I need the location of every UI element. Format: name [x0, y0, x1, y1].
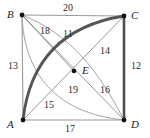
edge-weight-BD: 11 [63, 29, 73, 39]
vertex-dot-A [21, 118, 26, 123]
vertex-label-A: A [7, 119, 14, 130]
graph-diagram: B C E A D 20 18 11 13 14 12 19 16 15 17 [0, 0, 150, 138]
edge-weight-EC: 14 [100, 46, 110, 56]
vertex-dot-C [122, 14, 127, 19]
edge-weight-BC: 20 [63, 3, 73, 13]
vertex-dot-E [72, 69, 77, 74]
edge-weight-AC: 15 [44, 100, 54, 110]
edge-AB [22, 15, 23, 120]
vertex-dot-B [20, 13, 25, 18]
edge-weight-AB: 13 [8, 61, 18, 71]
vertex-label-E: E [82, 65, 89, 76]
graph-canvas [0, 0, 150, 138]
edge-weight-AD: 17 [65, 124, 75, 134]
edge-BC [22, 15, 124, 16]
edge-weight-BE: 18 [40, 26, 50, 36]
vertex-label-D: D [131, 119, 139, 130]
edge-weight-ED: 16 [100, 85, 110, 95]
edge-BD-diagonal [22, 15, 124, 120]
vertex-dot-D [122, 118, 127, 123]
edge-weight-AE: 19 [68, 85, 78, 95]
edge-BE [22, 15, 74, 71]
edge-weight-CD: 12 [131, 61, 141, 71]
vertex-label-B: B [7, 9, 14, 20]
vertex-label-C: C [131, 10, 138, 21]
